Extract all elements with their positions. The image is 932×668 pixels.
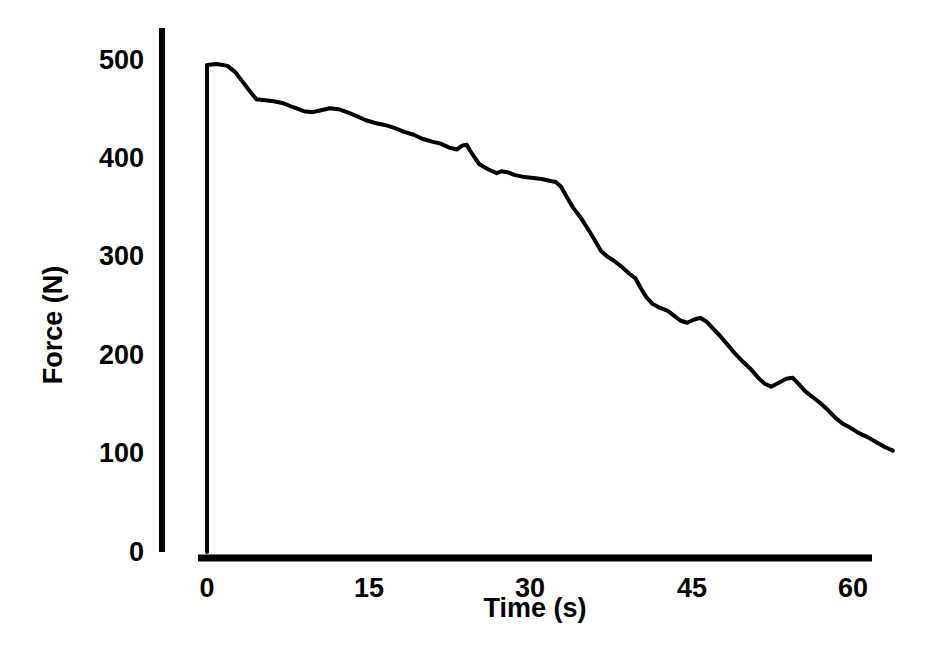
- y-axis-title: Force (N): [40, 266, 67, 385]
- y-tick-label-400: 400: [60, 145, 144, 172]
- y-tick-label-300: 300: [60, 243, 144, 270]
- y-tick-label-0: 0: [60, 539, 144, 566]
- x-axis-title: Time (s): [483, 595, 586, 622]
- chart-figure: 500 400 300 200 100 0 0 15 30 45 60 Forc…: [0, 0, 932, 668]
- y-tick-label-500: 500: [60, 47, 144, 74]
- y-tick-label-200: 200: [60, 342, 144, 369]
- force-decay-line: [207, 64, 893, 552]
- x-tick-label-60: 60: [838, 575, 868, 602]
- y-tick-label-100: 100: [60, 440, 144, 467]
- x-tick-label-45: 45: [677, 575, 707, 602]
- x-tick-label-0: 0: [199, 575, 214, 602]
- x-tick-label-15: 15: [354, 575, 384, 602]
- force-time-line-chart: [0, 0, 932, 668]
